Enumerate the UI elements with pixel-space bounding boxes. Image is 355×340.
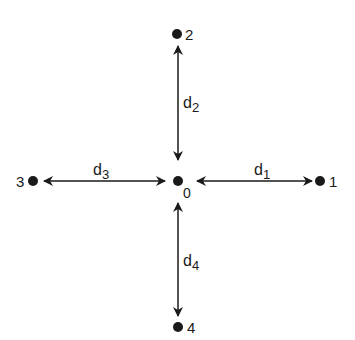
distance-diagram: d1 d2 d3 d4 0 1 2 3 4 bbox=[0, 0, 355, 340]
node-label-1: 1 bbox=[329, 173, 337, 190]
edge-label-d3: d3 bbox=[93, 161, 109, 182]
node-3 bbox=[28, 176, 38, 186]
edge-label-d1: d1 bbox=[254, 161, 270, 182]
node-0 bbox=[173, 176, 183, 186]
node-label-3: 3 bbox=[16, 173, 24, 190]
node-label-0: 0 bbox=[183, 185, 191, 201]
node-1 bbox=[315, 176, 325, 186]
edge-label-d2: d2 bbox=[183, 94, 199, 115]
node-4 bbox=[173, 322, 183, 332]
node-label-2: 2 bbox=[185, 26, 193, 43]
node-label-4: 4 bbox=[187, 319, 195, 336]
node-2 bbox=[172, 29, 182, 39]
edge-label-d4: d4 bbox=[183, 252, 199, 273]
